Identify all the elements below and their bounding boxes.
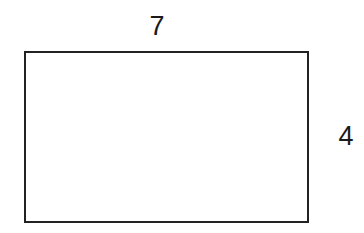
rectangle-shape [24, 51, 309, 223]
height-label: 4 [335, 121, 357, 151]
width-label: 7 [146, 11, 168, 41]
